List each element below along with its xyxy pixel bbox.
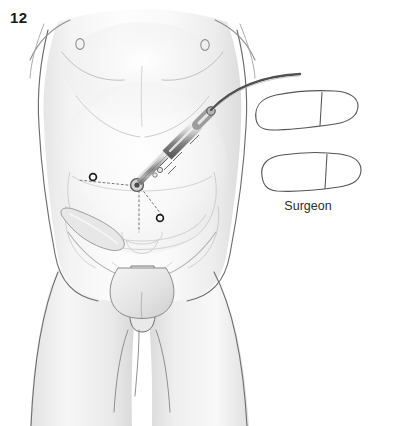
surgeon-label: Surgeon — [248, 200, 368, 213]
grip-knob-1 — [157, 167, 162, 172]
anatomy-illustration-canvas — [0, 0, 400, 426]
grip-knob-2 — [153, 173, 157, 177]
left-lower-quadrant-port-marker — [90, 174, 97, 181]
figure-number: 12 — [10, 10, 27, 25]
trocar-entry-bore — [134, 182, 139, 187]
figure-illustration: 12 Surgeon — [0, 0, 400, 426]
lower-shoe-outline — [262, 153, 361, 192]
right-lower-quadrant-port-marker — [157, 215, 164, 222]
